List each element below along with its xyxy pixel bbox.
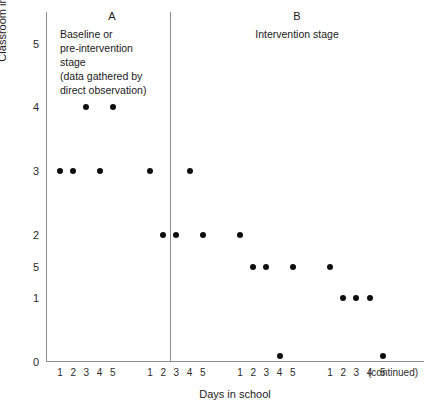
phase-divider-line [170, 12, 171, 362]
chart-container: A Baseline or pre-intervention stage (da… [0, 0, 434, 413]
x-axis-title: Days in school [46, 388, 424, 400]
data-point [367, 295, 373, 301]
x-axis-tick-label: 1 [57, 368, 63, 378]
y-axis-tick-label: 3 [33, 166, 39, 177]
y-axis-tick-label: 2 [33, 229, 39, 240]
data-point [200, 232, 206, 238]
x-axis-tick-label: 3 [264, 368, 270, 378]
data-point [327, 264, 333, 270]
data-point [97, 168, 103, 174]
x-axis-tick-label: 1 [237, 368, 243, 378]
data-point [160, 232, 166, 238]
data-point [147, 168, 153, 174]
x-axis-tick-label: 4 [277, 368, 283, 378]
x-axis-tick-label: 2 [160, 368, 166, 378]
data-point [57, 168, 63, 174]
y-axis-tick-label: 4 [33, 102, 39, 113]
data-point [353, 295, 359, 301]
x-axis-line [46, 361, 424, 362]
x-axis-tick-label: 5 [200, 368, 206, 378]
data-point [250, 264, 256, 270]
data-point [340, 295, 346, 301]
x-axis-tick-label: 1 [147, 368, 153, 378]
y-axis-tick-label: 5 [33, 261, 39, 272]
x-axis-tick-label: 5 [290, 368, 296, 378]
x-axis-tick-label: 5 [110, 368, 116, 378]
x-axis-tick-label: 2 [70, 368, 76, 378]
y-axis-tick-label: 5 [33, 38, 39, 49]
x-axis-tick-label: 3 [84, 368, 90, 378]
x-axis-continued-label: (continued) [368, 368, 418, 378]
plot-area: 5432510 12345123451234512345 (continued) [46, 12, 424, 362]
data-point [187, 168, 193, 174]
data-point [70, 168, 76, 174]
x-axis-tick-label: 2 [250, 368, 256, 378]
data-point [277, 353, 283, 359]
x-axis-tick-label: 1 [327, 368, 333, 378]
x-axis-tick-label: 2 [340, 368, 346, 378]
y-axis-title: Classroom incidents per daya [0, 0, 8, 105]
data-point [237, 232, 243, 238]
data-point [83, 104, 89, 110]
data-point [263, 264, 269, 270]
x-axis-tick-label: 4 [187, 368, 193, 378]
data-point [290, 264, 296, 270]
y-axis-title-text: Classroom incidents per day [0, 0, 8, 62]
x-axis-tick-label: 3 [174, 368, 180, 378]
data-point [110, 104, 116, 110]
x-axis-tick-label: 3 [354, 368, 360, 378]
x-axis-tick-label: 4 [97, 368, 103, 378]
y-axis-tick-label: 1 [33, 293, 39, 304]
y-axis-tick-label: 0 [33, 357, 39, 368]
data-point [173, 232, 179, 238]
data-point [380, 353, 386, 359]
y-axis-line [46, 12, 47, 362]
